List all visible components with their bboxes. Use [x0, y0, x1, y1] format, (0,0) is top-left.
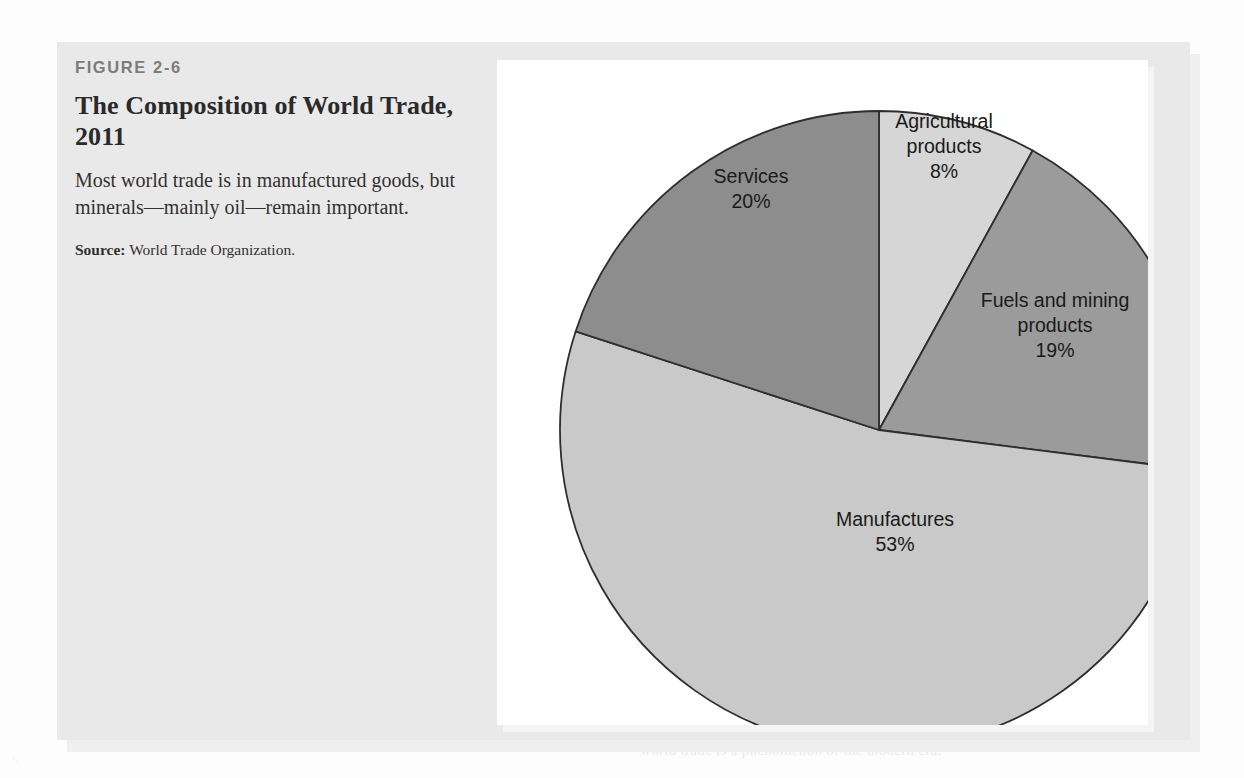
figure-number-label: FIGURE 2-6 [75, 58, 475, 77]
figure-container: FIGURE 2-6 The Composition of World Trad… [57, 42, 1190, 740]
source-label: Source: [75, 241, 126, 258]
figure-caption-block: FIGURE 2-6 The Composition of World Trad… [75, 58, 475, 259]
figure-source: Source: World Trade Organization. [75, 241, 475, 259]
source-text: World Trade Organization. [129, 241, 295, 258]
ghost-text-line: world trade is a phenomenon of the moder… [640, 742, 942, 759]
paper-speckle: ·. [12, 752, 30, 762]
pie-slice-group [560, 111, 1148, 725]
chart-panel: Agriculturalproducts8%Fuels and miningpr… [497, 60, 1148, 725]
figure-title: The Composition of World Trade, 2011 [75, 90, 475, 153]
pie-chart: Agriculturalproducts8%Fuels and miningpr… [497, 60, 1148, 725]
figure-description: Most world trade is in manufactured good… [75, 167, 475, 221]
